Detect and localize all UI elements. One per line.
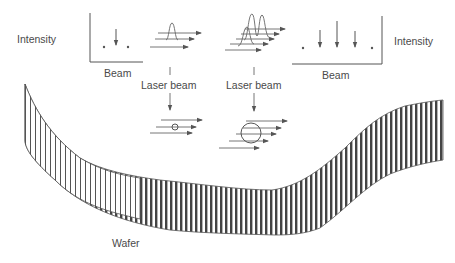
right-intensity-graph: Intensity Beam xyxy=(292,16,434,81)
small-intensity-peak xyxy=(166,23,178,40)
intensity-label-left: Intensity xyxy=(17,33,57,45)
wafer-label: Wafer xyxy=(112,237,140,249)
beam-label-right: Beam xyxy=(322,69,350,81)
large-intensity-peak xyxy=(244,14,270,40)
intensity-label-right: Intensity xyxy=(394,35,434,47)
large-particle-scatter xyxy=(219,121,287,148)
left-graph-point xyxy=(103,46,105,48)
wafer: Wafer xyxy=(25,84,443,249)
laser-beam-label-right: Laser beam xyxy=(226,79,282,91)
laser-beam-left: Laser beam xyxy=(141,67,197,110)
wafer-band xyxy=(25,84,443,235)
beam-label-left: Beam xyxy=(104,67,132,79)
small-beam-profile xyxy=(150,23,201,47)
wafer-laser-scattering-diagram: Intensity Beam Intensity Beam Lase xyxy=(0,0,455,263)
right-graph-point xyxy=(302,47,304,49)
right-graph-point xyxy=(371,47,373,49)
large-particle-icon xyxy=(241,123,261,143)
large-beam-profile xyxy=(225,14,285,50)
small-particle-scatter xyxy=(150,120,202,133)
left-intensity-graph: Intensity Beam xyxy=(17,13,143,79)
laser-beam-right: Laser beam xyxy=(226,67,282,111)
left-graph-point xyxy=(127,46,129,48)
laser-beam-label-left: Laser beam xyxy=(141,79,197,91)
